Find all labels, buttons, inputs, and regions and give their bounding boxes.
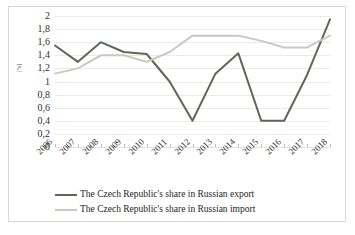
y-axis-tick-label: 2 xyxy=(45,11,50,21)
x-axis-tick-mark xyxy=(147,144,148,147)
y-axis-tick-labels: 21,81,61,41,210,80,60,40,20 xyxy=(12,16,50,147)
x-axis-tick-mark xyxy=(193,144,194,147)
x-axis-tick-labels: 2006200720082009201020112012201320142015… xyxy=(55,148,330,182)
y-axis-tick-label: 1,6 xyxy=(38,37,51,47)
y-axis-tick-label: 1,8 xyxy=(38,24,51,34)
x-axis-tick-mark xyxy=(261,144,262,147)
x-axis-tick-mark xyxy=(284,144,285,147)
legend-line-swatch xyxy=(55,209,77,211)
x-axis-tick-mark xyxy=(307,144,308,147)
legend-item-label: The Czech Republic's share in Russian ex… xyxy=(80,190,254,200)
y-axis-tick-label: 1,2 xyxy=(38,63,51,73)
x-axis-tick-mark xyxy=(330,144,331,147)
legend-item-label: The Czech Republic's share in Russian im… xyxy=(80,205,255,215)
y-axis-tick-label: 1,4 xyxy=(38,50,51,60)
x-axis-tick-mark xyxy=(215,144,216,147)
y-axis-tick-label: 0,8 xyxy=(38,90,51,100)
chart-legend: The Czech Republic's share in Russian ex… xyxy=(55,187,315,217)
legend-item[interactable]: The Czech Republic's share in Russian ex… xyxy=(55,187,315,202)
plot-area xyxy=(55,16,330,147)
legend-line-swatch xyxy=(55,194,77,196)
y-axis-tick-label: 1 xyxy=(45,77,50,87)
x-axis-tick-mark xyxy=(55,144,56,147)
y-axis-tick-label: 0,4 xyxy=(38,116,51,126)
x-axis-tick-mark xyxy=(238,144,239,147)
x-axis-tick-mark xyxy=(170,144,171,147)
x-axis-tick-mark xyxy=(101,144,102,147)
chart-figure: [%] 21,81,61,41,210,80,60,40,20 20062007… xyxy=(0,0,355,235)
x-axis-tick-mark xyxy=(78,144,79,147)
legend-item[interactable]: The Czech Republic's share in Russian im… xyxy=(55,202,315,217)
series-line-import xyxy=(55,36,330,74)
series-line-export xyxy=(55,19,330,121)
y-axis-tick-label: 0,6 xyxy=(38,103,51,113)
x-axis-tick-mark xyxy=(124,144,125,147)
series-lines xyxy=(55,16,330,147)
